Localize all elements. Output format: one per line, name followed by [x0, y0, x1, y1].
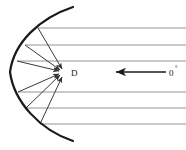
reflected-rays-group [17, 28, 62, 124]
angle-degree-symbol-icon: ° [175, 65, 178, 71]
incoming-rays-group [17, 28, 186, 124]
diagram-canvas: D 0 ° [0, 0, 186, 150]
focus-label: D [71, 68, 78, 78]
parabolic-reflector-diagram: D 0 ° [0, 0, 186, 150]
angle-label: 0 [169, 68, 174, 78]
reflected-ray-4 [18, 74, 59, 92]
reflected-ray-3 [17, 61, 59, 71]
